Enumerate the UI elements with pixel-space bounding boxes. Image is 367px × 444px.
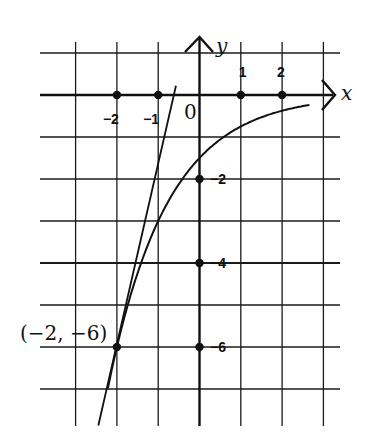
marked-point (113, 343, 121, 351)
x-axis-label: x (341, 81, 352, 105)
point-annotation: (−2, −6) (20, 321, 107, 345)
x-tick-label: −1 (143, 111, 159, 127)
curve-line (108, 105, 310, 389)
x-tick-label: 2 (277, 64, 285, 80)
marked-point (154, 91, 162, 99)
y-tick-label: −2 (210, 171, 226, 187)
y-tick-label: −6 (210, 339, 226, 355)
marked-point (113, 91, 121, 99)
graph-figure: −2−112−2−4−6 x y 0 (−2, −6) (0, 0, 367, 444)
marked-point (195, 175, 203, 183)
y-tick-label: −4 (210, 255, 226, 271)
x-tick-label: 1 (239, 64, 247, 80)
marked-point (237, 91, 245, 99)
marked-point (195, 343, 203, 351)
marked-point (195, 259, 203, 267)
marked-point (278, 91, 286, 99)
x-tick-label: −2 (103, 111, 119, 127)
y-axis-label: y (215, 34, 228, 58)
axes (40, 37, 335, 426)
origin-label: 0 (184, 100, 197, 124)
